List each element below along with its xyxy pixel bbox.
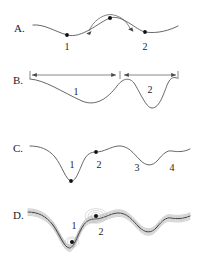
panel-d-label: D. xyxy=(13,209,24,221)
panel-d-number-1: 1 xyxy=(72,220,77,231)
panel-a-number-1: 1 xyxy=(65,41,70,52)
panel-d-dot-minimum-1 xyxy=(70,240,74,244)
panel-c-energy-curve xyxy=(30,146,190,181)
panel-a-label: A. xyxy=(14,22,25,34)
panel-c: C. 1 2 3 4 xyxy=(13,142,190,183)
panel-c-label: C. xyxy=(13,142,23,154)
panel-b-label: B. xyxy=(13,74,23,86)
panel-c-number-4: 4 xyxy=(170,162,175,173)
panel-c-dot-minimum-1 xyxy=(69,179,73,183)
panel-d-dot-minimum-2 xyxy=(94,214,98,218)
panel-c-dot-minimum-2 xyxy=(94,150,98,154)
panel-a-energy-curve xyxy=(33,17,178,35)
panel-c-number-2: 2 xyxy=(97,159,102,170)
panel-a-dot-minimum-1 xyxy=(65,33,69,37)
panel-b-energy-curve xyxy=(30,78,177,108)
curved-arrow-right-head-icon xyxy=(128,28,133,32)
figure-canvas: A. 1 2 B. 1 2 C. xyxy=(0,0,218,267)
panel-c-number-3: 3 xyxy=(135,162,140,173)
panel-d: D. 1 2 xyxy=(13,209,190,252)
ensemble-curve-5 xyxy=(28,214,190,250)
panel-a: A. 1 2 xyxy=(14,15,178,53)
panel-a-dot-minimum-2 xyxy=(143,30,147,34)
panel-d-number-2: 2 xyxy=(99,226,104,237)
panel-b-number-2: 2 xyxy=(148,84,153,95)
panel-b-number-1: 1 xyxy=(74,86,79,97)
panel-a-number-2: 2 xyxy=(143,41,148,52)
panel-c-number-1: 1 xyxy=(70,159,75,170)
panel-b: B. 1 2 xyxy=(13,71,178,108)
panel-a-dot-barrier-peak xyxy=(108,16,112,20)
panel-b-width-arrows xyxy=(30,71,178,79)
